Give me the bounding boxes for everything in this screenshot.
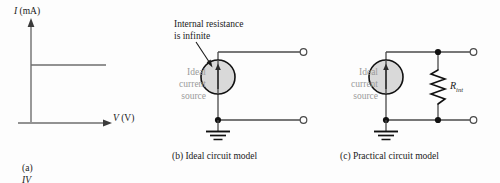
- panel-practical-circuit-model: Ideal current source Rint (c) Practical …: [330, 0, 500, 183]
- caption-panel-c: (c) Practical circuit model: [340, 150, 500, 162]
- junction-dot-bottom: [435, 117, 441, 123]
- y-axis-label: I (mA): [14, 6, 40, 16]
- terminal-bottom[interactable]: [470, 117, 477, 124]
- ideal-current-source-label-c: Ideal current source: [332, 66, 378, 102]
- caption-panel-b: (b) Ideal circuit model: [172, 150, 332, 162]
- junction-dot-top: [435, 49, 441, 55]
- resistor-zigzag: [431, 70, 445, 104]
- x-axis-unit: (V): [121, 113, 134, 123]
- terminal-top[interactable]: [300, 49, 307, 56]
- caption-panel-a: (a) IV curve for an ideal current source: [22, 150, 172, 183]
- annotation-internal-resistance: Internal resistance is infinite: [174, 19, 294, 42]
- terminal-top[interactable]: [470, 49, 477, 56]
- terminal-bottom[interactable]: [300, 117, 307, 124]
- y-axis-unit: (mA): [20, 6, 41, 16]
- panel-ideal-circuit-model: Internal resistance is infinite Ideal cu…: [160, 0, 330, 183]
- y-axis-arrowhead: [28, 18, 35, 27]
- panel-iv-curve: I (mA) V (V) (a) IV curve for an ideal c…: [0, 0, 170, 183]
- iv-curve-plot: [0, 0, 170, 150]
- resistor-label-subscript: int: [456, 86, 463, 93]
- caption-a-italic: IV: [22, 175, 31, 183]
- x-axis-arrowhead: [103, 120, 112, 127]
- caption-a-prefix: (a): [22, 163, 33, 173]
- x-axis-label: V (V): [113, 113, 134, 123]
- resistor-label: Rint: [450, 80, 463, 93]
- ideal-current-source-label-b: Ideal current source: [160, 66, 206, 102]
- annotation-leader-line: [196, 42, 211, 64]
- figure-current-source-models: I (mA) V (V) (a) IV curve for an ideal c…: [0, 0, 500, 183]
